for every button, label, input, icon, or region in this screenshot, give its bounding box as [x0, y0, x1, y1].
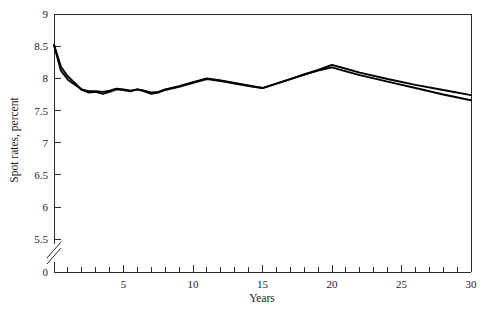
chart-svg: 5.566.577.588.590 51015202530 Years Spot… [0, 0, 485, 318]
y-tick-label: 7 [43, 137, 49, 149]
y-tick-label: 6.5 [34, 169, 48, 181]
x-tick-label: 10 [188, 278, 200, 290]
x-tick-label: 30 [466, 278, 478, 290]
spot-rate-chart: 5.566.577.588.590 51015202530 Years Spot… [0, 0, 485, 318]
y-tick-label: 6 [43, 201, 49, 213]
plot-frame [54, 14, 471, 272]
y-tick-label: 8 [43, 72, 49, 84]
y-tick-label: 8.5 [34, 40, 48, 52]
x-axis-major-ticks [124, 265, 472, 272]
x-tick-label: 15 [257, 278, 269, 290]
y-axis-break-marker [47, 242, 61, 264]
x-tick-label: 5 [121, 278, 127, 290]
y-axis-tick-labels: 5.566.577.588.590 [34, 8, 48, 278]
x-tick-label: 20 [327, 278, 339, 290]
x-axis-title: Years [249, 292, 275, 304]
y-tick-label: 5.5 [34, 233, 48, 245]
y-tick-label: 9 [43, 8, 49, 20]
y-tick-label: 7.5 [34, 105, 48, 117]
y-tick-label-zero: 0 [43, 266, 49, 278]
x-axis-tick-labels: 51015202530 [121, 278, 477, 290]
x-tick-label: 25 [396, 278, 408, 290]
series-spot-rate-curve-b [54, 45, 471, 100]
data-series-group [54, 45, 471, 100]
y-axis-title: Spot rates, percent [8, 97, 21, 183]
